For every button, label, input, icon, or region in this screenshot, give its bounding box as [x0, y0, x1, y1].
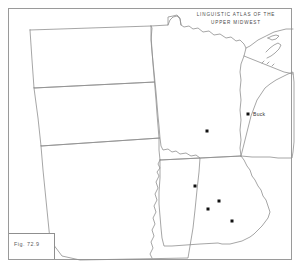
isle-royale-detail: [268, 35, 279, 40]
linguistic-atlas-figure: LINGUISTIC ATLAS OF THE UPPER MIDWEST Fi…: [0, 0, 302, 270]
map-point-marker: [206, 130, 209, 133]
map-title-line-2: UPPER MIDWEST: [186, 19, 286, 27]
iowa-missouri-river-border: [150, 160, 160, 258]
upper-midwest-outline-map: [0, 0, 302, 270]
figure-number-label: Fig. 72.9: [14, 241, 39, 247]
map-point-marker: [218, 200, 221, 203]
state-outline-minnesota: [151, 16, 246, 160]
map-point-label: Buck: [253, 111, 265, 117]
map-point-marker: [207, 208, 210, 211]
map-point-marker: [247, 113, 250, 116]
lake-superior-south-shore: [244, 56, 293, 74]
state-outline-south-dakota: [34, 82, 160, 146]
map-point-marker: [231, 220, 234, 223]
map-title: LINGUISTIC ATLAS OF THE UPPER MIDWEST: [186, 11, 286, 26]
state-outline-nebraska: [41, 138, 200, 260]
map-title-line-1: LINGUISTIC ATLAS OF THE: [186, 11, 286, 19]
state-outline-iowa: [159, 156, 270, 246]
keweenaw-peninsula: [266, 43, 281, 58]
state-outline-north-dakota: [30, 26, 155, 88]
map-point-marker: [194, 185, 197, 188]
